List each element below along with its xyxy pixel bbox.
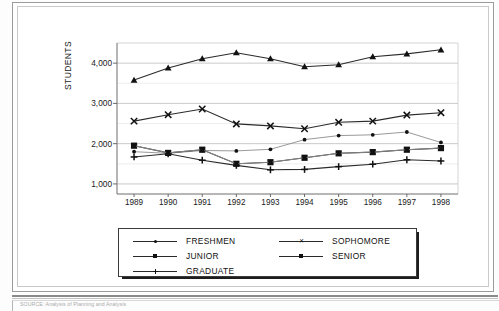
legend-item-sophomore[interactable]: ✕SOPHOMORE [279,235,390,247]
legend-label: SOPHOMORE [332,236,390,246]
data-series [131,46,445,173]
legend-marker-x-icon: ✕ [279,236,323,246]
page-rule-secondary [12,298,498,299]
chart-legend: FRESHMEN✕SOPHOMOREJUNIORSENIORGRADUATE [118,228,417,277]
gridlines [117,63,458,184]
legend-item-freshmen[interactable]: FRESHMEN [133,235,235,247]
page-rule [12,295,498,297]
legend-label: SENIOR [332,251,366,261]
legend-item-graduate[interactable]: GRADUATE [133,265,234,277]
legend-marker-square-small-icon [279,251,323,261]
legend-item-junior[interactable]: JUNIOR [133,250,219,262]
legend-label: JUNIOR [186,251,219,261]
legend-item-senior[interactable]: SENIOR [279,250,366,262]
legend-marker-square-icon [133,251,177,261]
legend-marker-plus-icon [133,266,177,276]
source-footnote: SOURCE: Analysis of Planning and Analysi… [20,301,440,310]
legend-marker-dot-icon [133,236,177,246]
x-tick-label: 1998 [421,198,461,207]
series-junior [131,143,444,167]
series-senior [132,144,443,166]
series-sophomore [131,106,444,132]
legend-label: FRESHMEN [186,236,235,246]
legend-label: GRADUATE [186,266,234,276]
series-senior_top [131,46,445,82]
